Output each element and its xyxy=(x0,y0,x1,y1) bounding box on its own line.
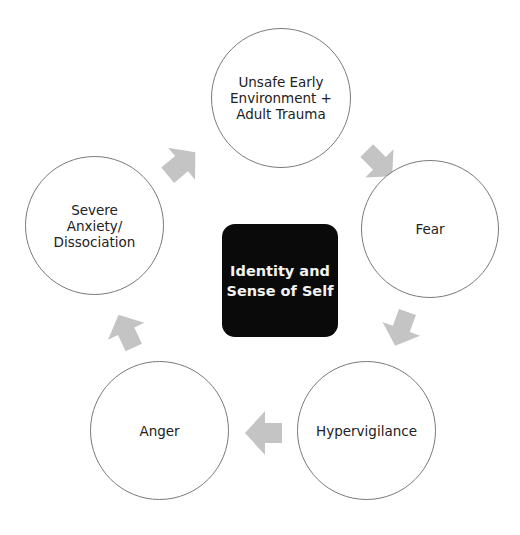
arrow-anxiety-to-unsafe xyxy=(154,136,209,191)
node-hypervigilance: Hypervigilance xyxy=(297,361,436,500)
node-severe-anxiety: Severe Anxiety/ Dissociation xyxy=(25,156,164,295)
arrow-fear-to-hypervigilance xyxy=(376,305,426,353)
node-label: Severe Anxiety/ Dissociation xyxy=(54,202,136,250)
center-label: Identity and Sense of Self xyxy=(227,261,334,301)
arrow-hypervigilance-to-anger xyxy=(245,411,282,455)
node-label: Unsafe Early Environment + Adult Trauma xyxy=(230,74,332,122)
node-fear: Fear xyxy=(361,160,499,298)
node-label: Fear xyxy=(415,221,444,237)
center-identity-box: Identity and Sense of Self xyxy=(222,224,338,337)
node-label: Anger xyxy=(139,423,179,439)
node-unsafe-environment: Unsafe Early Environment + Adult Trauma xyxy=(211,28,351,168)
node-label: Hypervigilance xyxy=(316,423,417,439)
node-anger: Anger xyxy=(90,361,229,500)
arrow-anger-to-anxiety xyxy=(100,306,151,356)
